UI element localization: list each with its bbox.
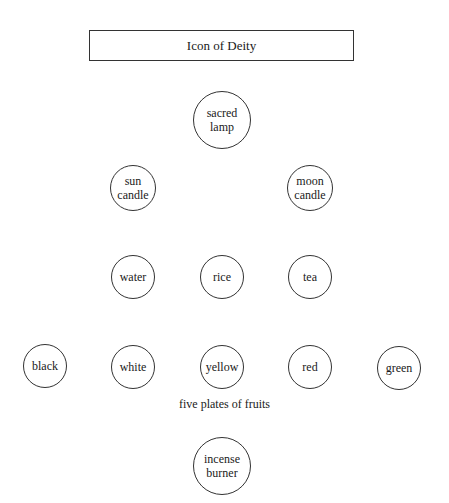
incense-burner-node: incense burner (193, 437, 251, 495)
fruit-plate-green: green (377, 346, 421, 390)
fruits-caption: five plates of fruits (0, 397, 449, 412)
tea-node: tea (288, 255, 332, 299)
tea-label: tea (303, 270, 317, 284)
fruit-plate-red: red (288, 345, 332, 389)
fruit-plate-red-label: red (302, 360, 317, 374)
fruit-plate-black-label: black (32, 359, 58, 373)
rice-label: rice (213, 270, 231, 284)
rice-node: rice (200, 255, 244, 299)
deity-icon-box: Icon of Deity (89, 30, 354, 61)
moon-candle-node: moon candle (287, 165, 333, 211)
fruit-plate-white: white (111, 345, 155, 389)
fruit-plate-yellow: yellow (200, 345, 244, 389)
fruit-plate-yellow-label: yellow (206, 360, 239, 374)
fruit-plate-white-label: white (120, 360, 147, 374)
sun-candle-label: sun candle (117, 174, 148, 202)
incense-burner-label: incense burner (204, 452, 240, 480)
fruit-plate-green-label: green (386, 361, 413, 375)
moon-candle-label: moon candle (294, 174, 325, 202)
water-label: water (120, 270, 147, 284)
deity-icon-label: Icon of Deity (187, 38, 256, 54)
sacred-lamp-node: sacred lamp (193, 91, 251, 149)
sun-candle-node: sun candle (110, 165, 156, 211)
sacred-lamp-label: sacred lamp (207, 106, 238, 134)
water-node: water (111, 255, 155, 299)
fruit-plate-black: black (23, 344, 67, 388)
